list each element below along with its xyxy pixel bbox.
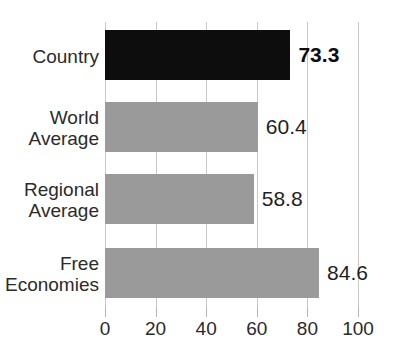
tick-mark-80 (307, 308, 308, 317)
x-axis-tick-label: 80 (297, 318, 318, 340)
x-axis-tick-label: 40 (196, 318, 217, 340)
category-label: Free Economies (5, 253, 99, 295)
bar (105, 248, 319, 298)
bar (105, 102, 258, 152)
category-label: Regional Average (24, 179, 99, 221)
x-axis-tick-label: 60 (246, 318, 267, 340)
bar (105, 174, 254, 224)
bar-chart: 020406080100Country73.3World Average60.4… (0, 0, 395, 356)
x-axis-tick-label: 20 (145, 318, 166, 340)
tick-mark-100 (358, 308, 359, 317)
category-label: Country (32, 46, 99, 67)
chart-title (0, 0, 395, 2)
bar-value-label: 60.4 (266, 116, 307, 137)
bar-value-label: 58.8 (262, 188, 303, 209)
bar-value-label: 73.3 (298, 44, 339, 65)
x-axis-tick-label: 100 (342, 318, 374, 340)
tick-mark-0 (105, 308, 106, 317)
category-label: World Average (29, 107, 99, 149)
bar-value-label: 84.6 (327, 262, 368, 283)
tick-mark-20 (156, 308, 157, 317)
x-axis-tick-label: 0 (100, 318, 111, 340)
tick-mark-40 (206, 308, 207, 317)
tick-mark-60 (257, 308, 258, 317)
bar (105, 30, 290, 80)
